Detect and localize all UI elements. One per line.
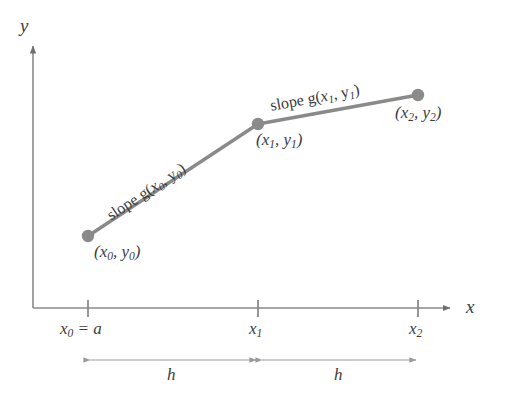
point-label-0: (x0, y0) (94, 243, 141, 260)
dimension-label-h-1: h (167, 366, 176, 383)
tick-label-x2: x2 (409, 320, 422, 337)
diagram-canvas (0, 0, 511, 407)
dimension-label-h-2: h (334, 366, 343, 383)
data-point-0 (82, 230, 94, 242)
tick-label-x0: x0 = a (60, 320, 102, 337)
data-point-2 (412, 89, 424, 101)
point-label-2: (x2, y2) (395, 104, 442, 121)
data-point-1 (252, 118, 264, 130)
euler-method-diagram: y x x0 = a x1 x2 (x0, y0) (x1, y1) (x2, … (0, 0, 511, 407)
x-axis-label: x (466, 297, 474, 316)
y-axis-label: y (20, 16, 28, 35)
tick-label-x1: x1 (249, 320, 262, 337)
point-label-1: (x1, y1) (256, 131, 303, 148)
euler-polyline (88, 95, 418, 236)
